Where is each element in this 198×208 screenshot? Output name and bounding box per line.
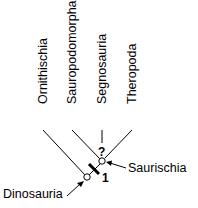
uncertainty-mark: ? [98, 145, 105, 159]
branch-theropoda [105, 130, 132, 158]
node-label-dinosauria: Dinosauria [3, 187, 63, 201]
taxon-label-theropoda: Theropoda [125, 43, 139, 104]
arrow-saurischia-head [106, 161, 112, 167]
taxon-label-sauropodomorpha: Sauropodomorpha [65, 0, 79, 104]
node-label-saurischia: Saurischia [128, 161, 186, 175]
node-dinosauria [84, 174, 90, 180]
taxon-label-segnosauria: Segnosauria [95, 34, 109, 104]
character-marker: 1 [102, 171, 109, 185]
arrow-saurischia-line [110, 163, 126, 168]
arrow-dinosauria-line [67, 184, 80, 196]
cladogram: Ornithischia Sauropodomorpha Segnosauria… [0, 0, 198, 208]
character-bar [89, 164, 99, 174]
branch-sauropodomorpha [72, 130, 100, 159]
taxon-label-ornithischia: Ornithischia [36, 38, 50, 104]
